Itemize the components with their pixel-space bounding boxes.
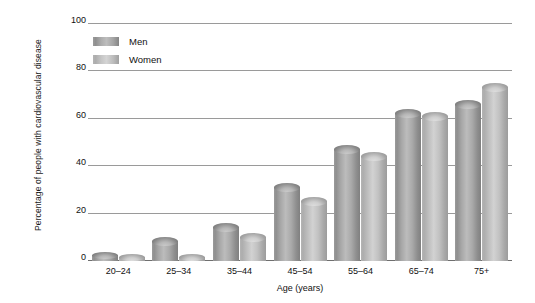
legend-item-label: Men <box>129 36 147 47</box>
x-axis-tick-label: 35–44 <box>209 266 270 276</box>
bar-chart: Percentage of people with cardiovascular… <box>0 0 535 303</box>
bar-top-cap <box>213 223 239 232</box>
x-axis-tick-label: 45–54 <box>270 266 331 276</box>
x-axis-tick-label: 75+ <box>451 266 512 276</box>
bar-group <box>391 24 452 261</box>
x-axis-tick-label: 20–24 <box>88 266 149 276</box>
x-axis-title: Age (years) <box>88 283 512 293</box>
bar-women-20-24[interactable] <box>119 254 145 261</box>
bar-top-cap <box>179 254 205 261</box>
y-axis-tick-label: 100 <box>56 16 86 25</box>
bar-body <box>395 113 421 261</box>
bar-top-cap <box>361 152 387 161</box>
y-axis-tick-label: 80 <box>56 63 86 72</box>
bar-women-75+[interactable] <box>482 83 508 261</box>
bar-men-65-74[interactable] <box>395 109 421 261</box>
y-axis-tick-label: 60 <box>56 110 86 119</box>
x-axis-tick-labels: 20–2425–3435–4445–5455–6465–7475+ <box>88 266 512 276</box>
bar-top-cap <box>422 112 448 121</box>
bar-top-cap <box>240 233 266 242</box>
bar-body <box>334 149 360 261</box>
women-swatch <box>93 55 119 64</box>
y-axis-tick-labels: 020406080100 <box>56 24 82 261</box>
bar-men-20-24[interactable] <box>92 252 118 261</box>
bar-top-cap <box>274 183 300 192</box>
bar-men-35-44[interactable] <box>213 223 239 261</box>
bar-men-25-34[interactable] <box>152 237 178 261</box>
bar-women-25-34[interactable] <box>179 254 205 261</box>
bar-body <box>361 156 387 261</box>
bar-group <box>270 24 331 261</box>
bar-women-35-44[interactable] <box>240 233 266 261</box>
bar-top-cap <box>301 197 327 206</box>
x-axis-tick-label: 55–64 <box>330 266 391 276</box>
bar-men-45-54[interactable] <box>274 183 300 261</box>
bar-women-55-64[interactable] <box>361 152 387 261</box>
bar-men-75+[interactable] <box>455 100 481 261</box>
bar-women-65-74[interactable] <box>422 112 448 261</box>
legend: MenWomen <box>93 34 162 70</box>
bar-top-cap <box>334 145 360 154</box>
bar-top-cap <box>455 100 481 109</box>
bar-women-45-54[interactable] <box>301 197 327 261</box>
legend-item-men[interactable]: Men <box>93 34 162 48</box>
bar-group <box>330 24 391 261</box>
bar-top-cap <box>119 254 145 261</box>
bar-body <box>274 187 300 261</box>
bar-men-55-64[interactable] <box>334 145 360 261</box>
legend-item-label: Women <box>129 54 162 65</box>
men-swatch <box>93 37 119 46</box>
y-axis-tick-label: 20 <box>56 205 86 214</box>
bar-body <box>301 201 327 261</box>
bar-group <box>209 24 270 261</box>
bar-body <box>422 116 448 261</box>
bar-body <box>482 87 508 261</box>
y-axis-tick-label: 40 <box>56 158 86 167</box>
y-axis-tick-label: 0 <box>56 253 86 262</box>
bar-group <box>451 24 512 261</box>
x-axis-tick-label: 65–74 <box>391 266 452 276</box>
bar-body <box>213 227 239 261</box>
y-axis-title: Percentage of people with cardiovascular… <box>33 15 43 255</box>
bar-top-cap <box>92 252 118 259</box>
x-axis-tick-label: 25–34 <box>149 266 210 276</box>
legend-item-women[interactable]: Women <box>93 52 162 66</box>
bar-body <box>455 104 481 261</box>
